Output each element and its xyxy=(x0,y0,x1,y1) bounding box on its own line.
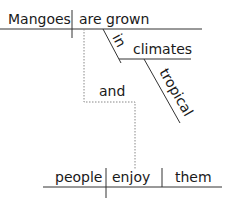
prep-object-climates: climates xyxy=(133,41,192,57)
sentence-diagram: Mangoes are grown in climates tropical a… xyxy=(0,0,236,203)
conjunction-and: and xyxy=(99,83,125,99)
clause1-subject: Mangoes xyxy=(8,11,71,27)
clause2-subject: people xyxy=(55,169,102,185)
conjunction-connector xyxy=(84,29,135,170)
clause1-predicate: are grown xyxy=(79,11,149,27)
diagram-svg: Mangoes are grown in climates tropical a… xyxy=(0,0,236,203)
clause2-object: them xyxy=(175,169,212,185)
clause2-predicate: enjoy xyxy=(112,169,150,185)
